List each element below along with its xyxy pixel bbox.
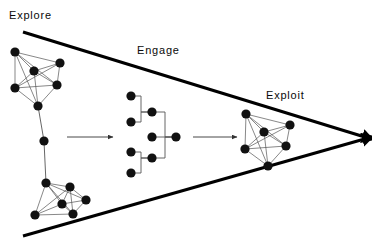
engage-tree-node	[126, 168, 135, 177]
explore-cluster-lower-edge	[35, 214, 73, 215]
explore-cluster-upper-node	[29, 66, 38, 75]
connector-segment	[38, 106, 44, 141]
exploit-cluster-node	[240, 144, 249, 153]
exploit-cluster-node	[241, 109, 250, 118]
engage-tree-node	[126, 147, 135, 156]
explore-cluster-upper-edge	[15, 52, 38, 106]
connector-node	[39, 136, 48, 145]
explore-cluster-upper-node	[10, 47, 19, 56]
engage-tree-node	[171, 132, 180, 141]
explore-cluster-upper-node	[33, 101, 42, 110]
funnel-top-line	[23, 32, 368, 138]
explore-cluster-lower-node	[68, 209, 77, 218]
exploit-cluster-node	[285, 120, 294, 129]
engage-tree-node	[147, 153, 156, 162]
funnel-bottom-line	[23, 138, 368, 236]
engage-tree-link	[152, 137, 176, 158]
explore-cluster-upper-node	[10, 83, 19, 92]
engage-tree-link	[152, 112, 176, 137]
exploit-cluster-edge	[245, 114, 246, 149]
explore-cluster-lower-node	[30, 210, 39, 219]
explore-cluster-lower-node	[65, 182, 74, 191]
exploit-cluster-node	[259, 127, 268, 136]
diagram-svg	[0, 0, 372, 250]
exploit-cluster-node	[263, 161, 272, 170]
explore-cluster-lower-node	[41, 178, 50, 187]
engage-tree-node	[126, 117, 135, 126]
stage-label-explore: Explore	[9, 10, 52, 21]
engage-tree-node	[147, 107, 156, 116]
explore-cluster-lower-node	[57, 199, 66, 208]
explore-cluster-upper-node	[55, 58, 64, 67]
stage-label-engage: Engage	[137, 45, 180, 56]
stage-label-exploit: Exploit	[266, 90, 305, 101]
exploit-cluster-node	[281, 141, 290, 150]
explore-cluster-upper-node	[52, 80, 61, 89]
explore-cluster-lower-node	[81, 195, 90, 204]
connector-segment	[44, 141, 46, 183]
engage-tree-node	[147, 132, 156, 141]
engage-tree-node	[126, 91, 135, 100]
funnel-outline	[23, 32, 368, 236]
diagram-canvas: Explore Engage Exploit	[0, 0, 372, 250]
